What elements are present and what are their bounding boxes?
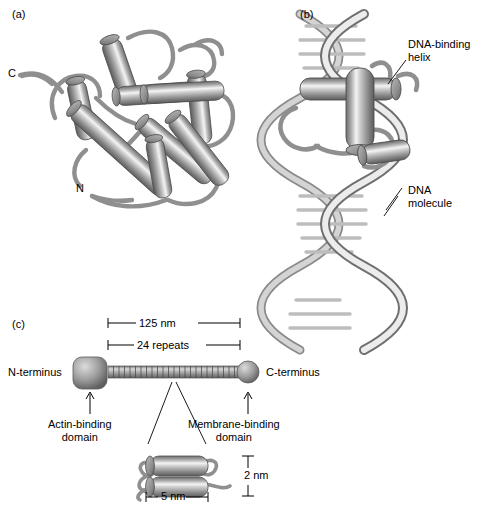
label-n-terminus-c: N-terminus [8, 366, 62, 379]
label-125nm: 125 nm [139, 317, 176, 330]
membrane-binding-domain-shape [237, 361, 259, 383]
label-24repeats: 24 repeats [137, 339, 189, 352]
panel-c-label: (c) [12, 318, 25, 330]
leader-dna-molecule [386, 188, 402, 210]
panel-a-graphic [20, 32, 233, 207]
label-5nm: 5 nm [161, 490, 185, 503]
actin-binding-domain-shape [73, 357, 107, 389]
spectrin-rod [108, 366, 240, 378]
label-c-terminus-a: C [8, 67, 16, 80]
label-c-terminus-c: C-terminus [266, 366, 320, 379]
label-n-terminus-a: N [76, 182, 84, 195]
figure-root: (a) C N (b) DNA-binding helix DNA molecu… [0, 0, 485, 506]
panel-a-label: (a) [12, 8, 25, 20]
label-actin-binding-domain: Actin-binding domain [48, 418, 112, 443]
arrow-actin [86, 392, 94, 414]
arrow-membrane [244, 392, 252, 414]
panel-b-label: (b) [300, 8, 313, 20]
helix-b-dna-binding [346, 68, 374, 156]
label-dna-binding-helix: DNA-binding helix [408, 38, 470, 63]
inset-helix-top [146, 456, 208, 476]
label-2nm: 2 nm [244, 469, 268, 482]
label-dna-molecule: DNA molecule [408, 184, 452, 209]
panel-b-graphic [261, 14, 417, 350]
helix-a5 [140, 81, 225, 104]
label-membrane-binding-domain: Membrane-binding domain [188, 418, 280, 443]
